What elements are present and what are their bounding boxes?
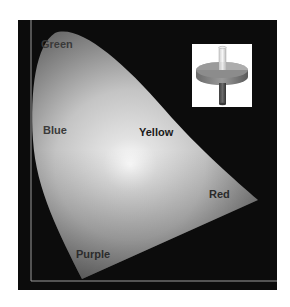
label-green: Green xyxy=(41,38,73,50)
label-blue: Blue xyxy=(43,124,67,136)
color-solid-disc-icon xyxy=(192,44,252,107)
inset-panel xyxy=(192,44,252,107)
label-purple: Purple xyxy=(76,248,110,260)
label-red: Red xyxy=(209,188,230,200)
label-yellow: Yellow xyxy=(139,126,173,138)
